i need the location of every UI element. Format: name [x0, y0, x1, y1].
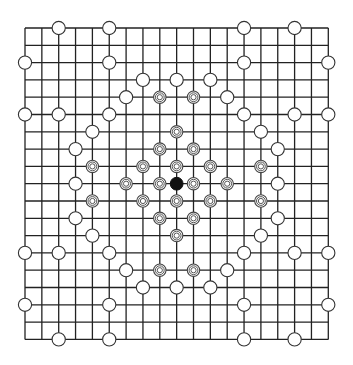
ringed-stone[interactable] — [154, 212, 166, 224]
ringed-stone[interactable] — [170, 126, 182, 138]
white-stone[interactable] — [271, 143, 284, 156]
ringed-stone[interactable] — [170, 195, 182, 207]
white-stone[interactable] — [18, 246, 31, 259]
white-stone[interactable] — [237, 21, 250, 34]
white-stone[interactable] — [120, 91, 133, 104]
white-stone[interactable] — [52, 21, 65, 34]
white-stone[interactable] — [18, 56, 31, 69]
ringed-stone[interactable] — [187, 264, 199, 276]
ringed-stone[interactable] — [137, 160, 149, 172]
ringed-stone[interactable] — [86, 195, 98, 207]
white-stone[interactable] — [52, 246, 65, 259]
white-stone[interactable] — [136, 73, 149, 86]
white-stone[interactable] — [120, 264, 133, 277]
white-stone[interactable] — [136, 281, 149, 294]
black-stone[interactable] — [170, 177, 183, 190]
ringed-stone[interactable] — [255, 160, 267, 172]
white-stone[interactable] — [86, 125, 99, 138]
white-stone[interactable] — [170, 73, 183, 86]
ringed-stone[interactable] — [86, 160, 98, 172]
white-stone[interactable] — [103, 298, 116, 311]
white-stone[interactable] — [69, 143, 82, 156]
ringed-stone[interactable] — [170, 229, 182, 241]
ringed-stone[interactable] — [137, 195, 149, 207]
game-board[interactable] — [0, 0, 353, 365]
white-stone[interactable] — [237, 56, 250, 69]
ringed-stone[interactable] — [187, 143, 199, 155]
ringed-stone[interactable] — [154, 178, 166, 190]
white-stone[interactable] — [237, 108, 250, 121]
ringed-stone[interactable] — [120, 178, 132, 190]
ringed-stone[interactable] — [204, 160, 216, 172]
ringed-stone[interactable] — [255, 195, 267, 207]
white-stone[interactable] — [86, 229, 99, 242]
white-stone[interactable] — [69, 177, 82, 190]
white-stone[interactable] — [237, 333, 250, 346]
white-stone[interactable] — [18, 108, 31, 121]
white-stone[interactable] — [52, 333, 65, 346]
white-stone[interactable] — [103, 246, 116, 259]
white-stone[interactable] — [18, 298, 31, 311]
white-stone[interactable] — [103, 56, 116, 69]
white-stone[interactable] — [221, 264, 234, 277]
white-stone[interactable] — [103, 108, 116, 121]
ringed-stone[interactable] — [154, 143, 166, 155]
white-stone[interactable] — [204, 73, 217, 86]
white-stone[interactable] — [103, 21, 116, 34]
ringed-stone[interactable] — [154, 91, 166, 103]
ringed-stone[interactable] — [187, 212, 199, 224]
white-stone[interactable] — [237, 246, 250, 259]
white-stone[interactable] — [69, 212, 82, 225]
white-stone[interactable] — [103, 333, 116, 346]
ringed-stone[interactable] — [170, 160, 182, 172]
ringed-stone[interactable] — [154, 264, 166, 276]
white-stone[interactable] — [170, 281, 183, 294]
white-stone[interactable] — [254, 125, 267, 138]
white-stone[interactable] — [254, 229, 267, 242]
white-stone[interactable] — [221, 91, 234, 104]
white-stone[interactable] — [322, 246, 335, 259]
white-stone[interactable] — [271, 212, 284, 225]
white-stone[interactable] — [204, 281, 217, 294]
white-stone[interactable] — [322, 56, 335, 69]
ringed-stone[interactable] — [221, 178, 233, 190]
ringed-stone[interactable] — [204, 195, 216, 207]
white-stone[interactable] — [52, 108, 65, 121]
white-stone[interactable] — [288, 333, 301, 346]
white-stone[interactable] — [288, 21, 301, 34]
white-stone[interactable] — [288, 246, 301, 259]
white-stone[interactable] — [322, 298, 335, 311]
ringed-stone[interactable] — [187, 178, 199, 190]
white-stone[interactable] — [288, 108, 301, 121]
white-stone[interactable] — [271, 177, 284, 190]
white-stone[interactable] — [237, 298, 250, 311]
ringed-stone[interactable] — [187, 91, 199, 103]
white-stone[interactable] — [322, 108, 335, 121]
